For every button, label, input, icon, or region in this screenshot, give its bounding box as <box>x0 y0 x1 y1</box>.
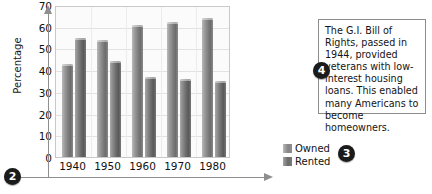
note-callout-box: The G.I. Bill of Rights, passed in 1944,… <box>318 19 426 114</box>
bar-highlight <box>110 61 121 63</box>
gridline <box>56 6 229 7</box>
x-tick-label-1940: 1940 <box>59 160 86 172</box>
plot-region <box>55 6 230 158</box>
category-gridline <box>126 7 127 157</box>
bar-highlight <box>215 81 226 83</box>
horizontal-axis-arrow <box>20 177 264 178</box>
x-tick-label-1970: 1970 <box>164 160 191 172</box>
y-tick-label-20: 20 <box>39 109 52 121</box>
bar-highlight <box>202 18 213 20</box>
marker-bubble-2: 2 <box>4 168 21 185</box>
legend-item-owned: Owned <box>283 142 337 155</box>
bar-rented-1970 <box>180 79 191 157</box>
bar-highlight <box>62 64 73 66</box>
x-tick-label-1960: 1960 <box>129 160 156 172</box>
legend-swatch-owned-icon <box>283 144 292 153</box>
chart-area <box>55 6 230 158</box>
bar-owned-1970 <box>167 22 178 157</box>
bar-highlight <box>167 22 178 24</box>
bar-owned-1960 <box>132 25 143 157</box>
y-tick-label-30: 30 <box>39 87 52 99</box>
bar-rented-1940 <box>75 38 86 157</box>
bar-rented-1950 <box>110 61 121 157</box>
bar-owned-1940 <box>62 64 73 157</box>
x-tick-label-1980: 1980 <box>199 160 226 172</box>
x-axis-ticks: 19401950196019701980 <box>55 160 230 174</box>
y-tick-label-60: 60 <box>39 22 52 34</box>
category-gridline <box>196 7 197 157</box>
x-tick-label-1950: 1950 <box>94 160 121 172</box>
legend-label-rented: Rented <box>295 156 330 167</box>
y-axis-title: Percentage <box>12 30 23 102</box>
y-tick-label-10: 10 <box>39 130 52 142</box>
category-gridline <box>161 7 162 157</box>
legend-swatch-rented-icon <box>283 157 292 166</box>
bar-highlight <box>132 25 143 27</box>
bar-highlight <box>97 40 108 42</box>
marker-bubble-4: 4 <box>313 62 330 79</box>
bar-highlight <box>145 77 156 79</box>
chart-legend: Owned Rented <box>283 142 337 168</box>
marker-bubble-3: 3 <box>338 145 355 162</box>
category-gridline <box>91 7 92 157</box>
bar-highlight <box>75 38 86 40</box>
vertical-axis-arrow <box>48 14 49 177</box>
bar-rented-1960 <box>145 77 156 157</box>
y-tick-label-40: 40 <box>39 65 52 77</box>
legend-label-owned: Owned <box>295 143 330 154</box>
bar-owned-1950 <box>97 40 108 157</box>
figure-root: 706050403020100 Percentage 1940195019601… <box>0 0 432 194</box>
bar-owned-1980 <box>202 18 213 157</box>
bar-rented-1980 <box>215 81 226 157</box>
y-tick-label-50: 50 <box>39 43 52 55</box>
bar-highlight <box>180 79 191 81</box>
legend-item-rented: Rented <box>283 155 337 168</box>
